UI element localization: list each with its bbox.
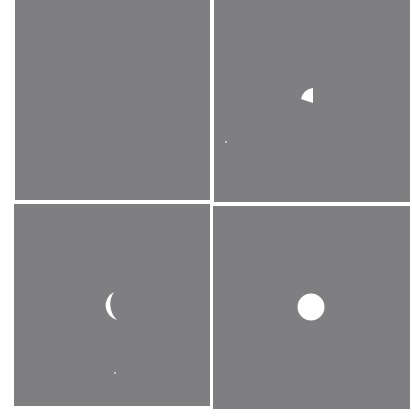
panel-bottom-right	[213, 206, 410, 409]
panel-bottom-right-canvas	[213, 206, 410, 409]
circle-shape	[298, 294, 325, 321]
four-panel-figure	[0, 0, 412, 417]
wedge-shape	[301, 88, 313, 103]
crescent-shape	[106, 292, 117, 320]
panel-bottom-left-canvas	[14, 204, 210, 406]
panel-top-left	[15, 0, 210, 200]
panel-top-right	[214, 0, 410, 202]
speck	[114, 372, 116, 374]
speck	[225, 141, 227, 143]
panel-bottom-left	[14, 204, 210, 406]
panel-top-right-canvas	[214, 0, 410, 202]
